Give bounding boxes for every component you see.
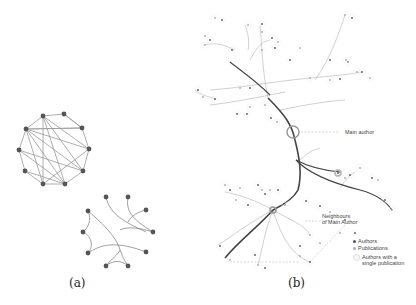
- network-edge: [245, 25, 249, 50]
- legend-authors-label: Authors: [358, 238, 377, 244]
- graph-edge: [64, 114, 82, 128]
- network-main-edge: [296, 160, 392, 210]
- bundled-edge: [120, 250, 128, 266]
- network-node: [261, 31, 263, 33]
- network-node: [254, 254, 256, 256]
- panel-b-coauthor-network: [195, 12, 395, 271]
- legend-single-line2: single publication: [362, 260, 404, 266]
- network-node: [299, 245, 301, 247]
- network-node: [309, 261, 311, 263]
- graph-node: [144, 208, 149, 213]
- network-node: [209, 39, 211, 41]
- graph-edge: [26, 129, 89, 149]
- network-main-edge: [230, 62, 270, 95]
- network-edge: [218, 210, 273, 245]
- network-node: [299, 47, 301, 49]
- network-node: [257, 184, 259, 186]
- network-node: [329, 59, 331, 61]
- legend-single-publication: Authors with a single publication: [353, 254, 404, 266]
- network-node: [229, 259, 231, 261]
- network-node: [309, 77, 311, 79]
- network-node: [261, 49, 263, 51]
- bundled-edge: [88, 211, 120, 250]
- bundled-edge: [83, 232, 91, 253]
- author-dot-icon: [353, 240, 356, 243]
- graph-node: [62, 112, 67, 117]
- graph-node: [41, 182, 46, 187]
- network-node: [214, 98, 216, 100]
- graph-node: [104, 264, 109, 269]
- network-node: [264, 104, 266, 106]
- graph-node: [104, 195, 109, 200]
- network-node: [377, 179, 379, 181]
- graph-edge: [19, 129, 26, 150]
- network-edge: [315, 15, 345, 80]
- network-node: [369, 77, 371, 79]
- graph-edge: [26, 128, 82, 129]
- single-publication-circle-icon: [353, 254, 360, 261]
- network-node: [276, 121, 278, 123]
- network-edge: [210, 72, 362, 90]
- panel-a-bundled-graph: [81, 195, 156, 269]
- graph-node: [23, 169, 28, 174]
- network-node: [261, 189, 263, 191]
- main-author-label: Main author: [345, 129, 374, 135]
- graph-node: [24, 127, 29, 132]
- network-node: [356, 71, 358, 73]
- graph-edge: [43, 116, 89, 149]
- network-main-edge: [225, 210, 273, 258]
- network-edge: [273, 210, 310, 262]
- annotation-leader-line: [310, 225, 345, 262]
- bundled-edge: [128, 197, 153, 232]
- graph-edge: [65, 171, 83, 184]
- network-node: [271, 37, 273, 39]
- graph-edge: [83, 149, 89, 171]
- network-node: [344, 14, 346, 16]
- graph-node: [151, 230, 156, 235]
- legend-authors: Authors: [353, 238, 377, 244]
- network-node: [277, 41, 279, 43]
- network-edge: [225, 192, 273, 210]
- network-node: [202, 96, 204, 98]
- network-node: [221, 19, 223, 21]
- network-node: [361, 71, 363, 73]
- network-node: [204, 35, 206, 37]
- network-node: [349, 174, 351, 176]
- graph-edge: [19, 150, 65, 184]
- network-node: [391, 209, 393, 211]
- network-node: [284, 204, 286, 206]
- graph-node: [17, 148, 22, 153]
- network-node: [299, 255, 301, 257]
- network-node: [371, 177, 373, 179]
- network-node: [224, 184, 226, 186]
- network-node: [257, 264, 259, 266]
- network-edge: [273, 210, 310, 235]
- graph-edge: [26, 129, 83, 171]
- graph-node: [86, 251, 91, 256]
- network-node: [239, 187, 241, 189]
- panel-b-caption: (b): [288, 276, 305, 290]
- graph-node: [81, 230, 86, 235]
- legend-publications: Publications: [353, 245, 388, 251]
- network-edge: [300, 148, 320, 160]
- network-node: [270, 117, 272, 119]
- network-node: [274, 47, 276, 49]
- graph-node: [144, 250, 149, 255]
- network-node: [359, 167, 361, 169]
- graph-node: [81, 169, 86, 174]
- graph-edge: [43, 149, 89, 184]
- network-node: [249, 106, 251, 108]
- network-node: [337, 172, 339, 174]
- graph-node: [86, 209, 91, 214]
- network-node: [277, 189, 279, 191]
- panel-a-caption: (a): [69, 276, 86, 290]
- network-node: [231, 49, 233, 51]
- network-node: [264, 193, 266, 195]
- graph-node: [126, 195, 131, 200]
- graph-node: [41, 114, 46, 119]
- network-node: [204, 44, 206, 46]
- bundled-edge: [106, 197, 146, 232]
- graph-node: [87, 147, 92, 152]
- graph-node: [126, 264, 131, 269]
- network-node: [249, 87, 251, 89]
